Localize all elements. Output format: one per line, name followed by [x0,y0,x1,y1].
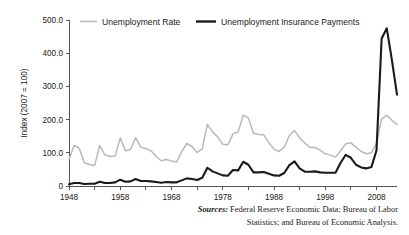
legend-label-1: Unemployment Rate [102,17,181,27]
y-tick-label: 0 [58,182,63,191]
y-tick-label: 200.0 [43,116,64,125]
chart-axes [66,20,398,190]
x-tick-label: 1968 [162,193,181,202]
y-tick-label: 500.0 [43,16,64,25]
chart-legend: Unemployment RateUnemployment Insurance … [80,17,360,27]
x-tick-label: 1978 [214,193,233,202]
x-tick-label: 1948 [60,193,79,202]
x-tick-label: 1988 [265,193,284,202]
chart-figure: Unemployment RateUnemployment Insurance … [0,0,409,235]
y-axis-title-text: Index (2007 = 100) [20,68,29,137]
y-tick-label: 300.0 [43,82,64,91]
x-tick-label: 1958 [111,193,130,202]
y-tick-label: 100.0 [43,149,64,158]
source-note-label: Sources: [198,205,228,214]
line-chart: Unemployment RateUnemployment Insurance … [0,0,409,235]
x-tick-label: 2008 [367,193,386,202]
y-axis-tick-labels: 0100.0200.0300.0400.0500.0 [43,16,64,191]
x-axis-tick-labels: 1948195819681978198819982008 [60,193,386,202]
axis-lines [69,20,397,186]
x-tick-label: 1998 [316,193,335,202]
y-axis-title: Index (2007 = 100) [20,68,29,137]
chart-series [69,28,397,184]
source-note: Sources: Federal Reserve Economic Data; … [173,204,398,229]
series-line-unemployment-insurance-payments [69,28,397,184]
series-line-unemployment-rate [69,115,397,165]
y-tick-label: 400.0 [43,49,64,58]
legend-label-2: Unemployment Insurance Payments [221,17,360,27]
source-note-text: Federal Reserve Economic Data; Bureau of… [228,205,398,226]
